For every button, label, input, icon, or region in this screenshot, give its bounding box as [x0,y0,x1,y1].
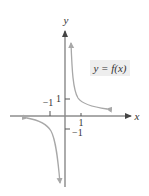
y-tick-label-neg: −1 [72,127,83,138]
function-graph: y = f(x) y x 1 −1 1 −1 [0,0,149,196]
x-axis-label: x [134,110,140,122]
curve-left-branch [27,118,60,183]
function-label: y = f(x) [92,62,126,75]
x-tick-label-neg: −1 [43,97,54,108]
y-axis-label: y [63,14,69,26]
y-tick-label-pos: 1 [56,93,61,104]
